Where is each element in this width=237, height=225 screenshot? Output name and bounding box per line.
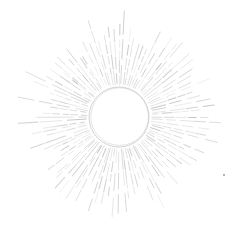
stray-dot	[223, 174, 225, 176]
sunburst-illustration	[0, 0, 237, 225]
